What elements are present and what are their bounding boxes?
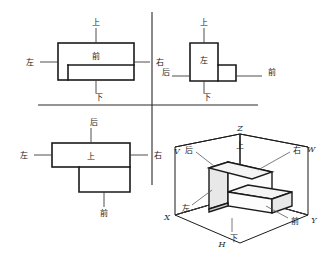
- side-view-label-center: 左: [200, 55, 208, 65]
- view-isometric: 上 后 右 左 前 下 V W H X Y Z: [163, 124, 317, 249]
- iso-label-qian: 前: [291, 216, 299, 226]
- iso-label-hou: 后: [185, 145, 193, 155]
- leader-hou: [196, 152, 214, 166]
- view-side: 上 下 后 前 左: [162, 18, 276, 102]
- side-view-outline: [190, 43, 236, 81]
- leader-you: [258, 152, 290, 170]
- iso-label-w: W: [307, 145, 316, 154]
- iso-label-x: X: [163, 213, 170, 222]
- iso-label-you: 右: [293, 145, 301, 155]
- front-view-label-center: 前: [92, 51, 100, 61]
- iso-label-v: V: [174, 147, 181, 156]
- front-view-outline: [58, 43, 134, 80]
- top-view-label-left: 左: [20, 150, 28, 160]
- iso-label-zuo: 左: [182, 203, 190, 213]
- view-front: 上 下 左 右 前: [26, 18, 164, 102]
- top-view-label-top: 后: [90, 117, 98, 127]
- front-view-label-top: 上: [92, 18, 100, 27]
- top-view-protrusion: [79, 167, 130, 192]
- top-view-label-right: 右: [154, 150, 162, 160]
- quadrant-dividers: [38, 12, 258, 185]
- side-view-label-right: 前: [268, 67, 276, 77]
- drawing-canvas: 上 下 左 右 前 上 下 后 前 左 后 前 左 右 上: [0, 0, 335, 264]
- view-top: 后 前 左 右 上: [20, 117, 162, 218]
- iso-label-y: Y: [311, 216, 317, 225]
- front-view-label-left: 左: [26, 57, 34, 67]
- top-view-label-center: 上: [87, 152, 95, 161]
- front-view-label-right: 右: [156, 57, 164, 67]
- side-view-label-left: 后: [162, 67, 170, 77]
- side-view-label-top: 上: [200, 18, 208, 27]
- iso-label-shang: 上: [236, 141, 244, 150]
- iso-label-z: Z: [236, 124, 243, 133]
- side-view-label-bottom: 下: [203, 93, 211, 102]
- front-view-label-bottom: 下: [95, 93, 103, 102]
- technical-drawing-figure: 上 下 左 右 前 上 下 后 前 左 后 前 左 右 上: [0, 0, 335, 264]
- top-view-label-bottom: 前: [100, 208, 108, 218]
- iso-label-xia: 下: [230, 234, 238, 243]
- iso-label-h: H: [218, 240, 227, 249]
